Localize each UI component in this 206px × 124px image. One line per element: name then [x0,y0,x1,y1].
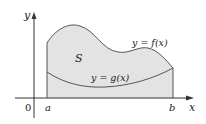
x-axis-arrow-icon [186,96,194,101]
a-label: a [45,102,51,113]
b-label: b [169,102,175,113]
origin-label: 0 [25,102,31,113]
region-s-label: S [75,52,83,65]
g-curve-label: y = g(x) [90,72,130,83]
y-axis-arrow-icon [32,12,37,19]
x-axis-label: x [189,101,196,114]
f-curve-label: y = f(x) [131,37,168,48]
area-between-curves-diagram: y x 0 a b S y = f(x) y = g(x) [0,0,206,124]
y-axis-label: y [23,9,31,22]
